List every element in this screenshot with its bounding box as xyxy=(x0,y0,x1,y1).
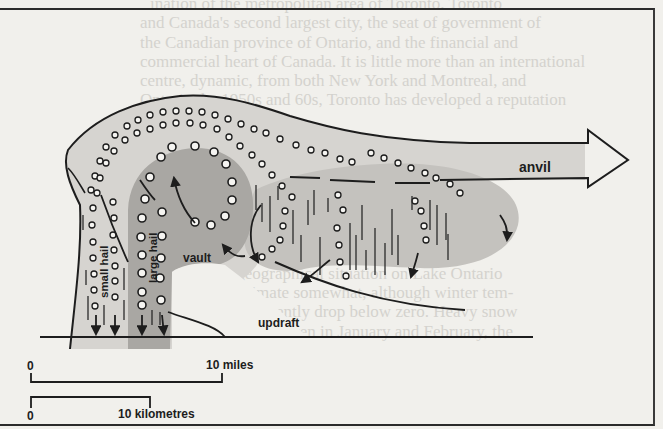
anvil-label: anvil xyxy=(519,159,551,175)
scale-bar-kilometres: 0 10 kilometres xyxy=(27,397,195,423)
miles-zero-label: 0 xyxy=(27,359,34,373)
updraft-label: updraft xyxy=(258,316,299,330)
large-hail-label: large hail xyxy=(147,233,159,284)
vault-label: vault xyxy=(183,251,211,265)
km-zero-label: 0 xyxy=(27,409,34,423)
scanned-page: ination of the metropolitan area of Toro… xyxy=(0,0,663,429)
miles-end-label: 10 miles xyxy=(206,358,254,372)
outflow-boundary-line xyxy=(275,262,465,310)
small-hail-label: small hail xyxy=(98,246,110,298)
hailstorm-diagram: anvil vault updraft small hail large hai… xyxy=(0,0,663,429)
km-end-label: 10 kilometres xyxy=(118,407,195,421)
scale-bar-miles: 0 10 miles xyxy=(27,358,254,382)
